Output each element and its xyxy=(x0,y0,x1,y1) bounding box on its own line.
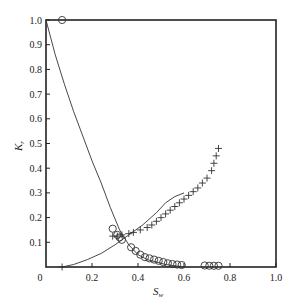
y-tick-label: 0.3 xyxy=(30,187,43,198)
plus-marker xyxy=(171,203,178,210)
origin-label: 0 xyxy=(38,272,43,283)
y-tick-label: 1.0 xyxy=(30,15,43,26)
plus-marker xyxy=(185,192,192,199)
kro-curve-line xyxy=(46,20,184,267)
circle-marker xyxy=(160,258,167,265)
circle-marker xyxy=(109,225,116,232)
x-tick-label: 0.4 xyxy=(132,272,145,283)
y-tick-label: 0.2 xyxy=(30,212,43,223)
plus-marker xyxy=(153,218,160,225)
plus-marker xyxy=(190,188,197,195)
x-tick-label: 0.6 xyxy=(178,272,191,283)
y-tick-label: 0.7 xyxy=(30,89,43,100)
plus-marker xyxy=(204,175,211,182)
x-axis-ticks: 0.20.40.60.81.0 xyxy=(86,263,283,283)
x-tick-label: 0.2 xyxy=(86,272,99,283)
data-markers xyxy=(59,16,223,270)
y-tick-label: 0.5 xyxy=(30,138,43,149)
circle-marker xyxy=(151,256,158,263)
plus-marker xyxy=(137,226,144,233)
plus-marker xyxy=(176,199,183,206)
y-axis-label: Kr xyxy=(12,141,26,152)
plus-marker xyxy=(158,214,165,221)
y-tick-label: 0.6 xyxy=(30,113,43,124)
circle-marker xyxy=(215,262,222,269)
plus-marker xyxy=(167,207,174,214)
plus-marker xyxy=(181,196,188,203)
x-tick-label: 1.0 xyxy=(270,272,283,283)
y-tick-label: 0.1 xyxy=(30,237,43,248)
y-tick-label: 0.9 xyxy=(30,39,43,50)
x-axis-label: Sw xyxy=(153,285,164,299)
y-tick-label: 0.8 xyxy=(30,64,43,75)
krw-curve-line xyxy=(62,193,184,267)
y-tick-label: 0.4 xyxy=(30,163,43,174)
plus-marker xyxy=(213,152,220,159)
relative-permeability-chart: 0.10.20.30.40.50.60.70.80.91.0 0.20.40.6… xyxy=(0,0,296,305)
plus-marker xyxy=(59,264,66,271)
fitted-curves xyxy=(46,20,184,267)
circle-marker xyxy=(146,255,153,262)
circle-marker xyxy=(132,247,139,254)
plus-marker xyxy=(215,145,222,152)
x-tick-label: 0.8 xyxy=(224,272,237,283)
plus-marker xyxy=(210,160,217,167)
y-axis-ticks: 0.10.20.30.40.50.60.70.80.91.0 xyxy=(30,15,51,248)
plus-marker xyxy=(208,167,215,174)
plus-marker xyxy=(162,210,169,217)
plus-marker xyxy=(199,180,206,187)
plot-frame xyxy=(46,20,276,267)
plot-border xyxy=(46,20,276,267)
circle-marker xyxy=(155,257,162,264)
plus-marker xyxy=(194,184,201,191)
